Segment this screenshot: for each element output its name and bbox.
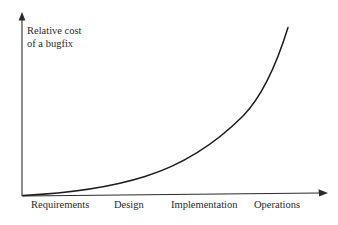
y-axis-label-line-1: Relative cost (27, 25, 82, 38)
y-axis-label: Relative cost of a bugfix (27, 25, 82, 50)
arrow-right-icon (319, 189, 329, 196)
x-axis-line (22, 193, 320, 196)
x-axis-tick-label-implementation: Implementation (171, 199, 237, 210)
bugfix-cost-chart: Relative cost of a bugfix Requirements D… (0, 0, 338, 225)
arrow-up-icon (19, 12, 26, 21)
y-axis-label-line-2: of a bugfix (27, 38, 82, 51)
x-axis-tick-label-design: Design (114, 199, 144, 210)
cost-curve-line (23, 28, 288, 196)
x-axis-tick-label-operations: Operations (254, 199, 300, 210)
x-axis-tick-label-requirements: Requirements (31, 199, 89, 210)
